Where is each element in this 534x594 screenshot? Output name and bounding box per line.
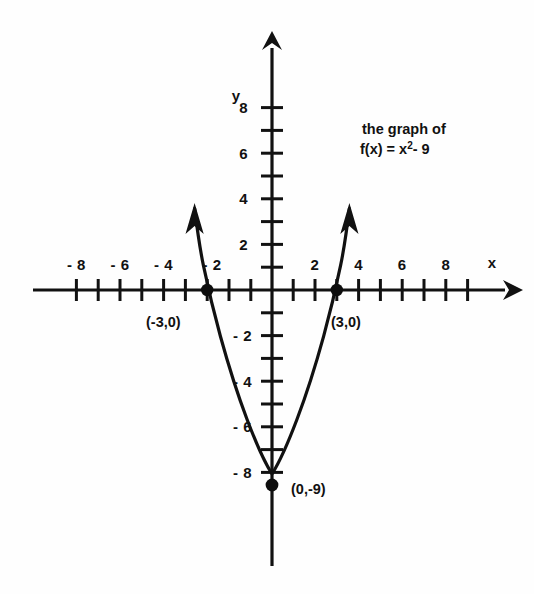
y-tick-label: 8 <box>239 99 248 116</box>
y-tick-label: 6 <box>239 145 248 162</box>
point-label-left-root: (-3,0) <box>146 314 181 330</box>
graph-annotation: the graph of f(x) = x2- 9 <box>360 121 446 157</box>
x-tick-label-group: - 8 - 6 - 4 - 2 2 4 6 8 <box>67 256 450 273</box>
x-tick-label: - 6 <box>110 256 129 273</box>
x-axis-arrowhead-icon <box>503 280 523 300</box>
x-tick-label: - 8 <box>67 256 86 273</box>
left-branch-arrowhead-icon <box>186 203 204 234</box>
y-axis-arrowhead-icon <box>262 31 282 50</box>
x-tick-label: - 4 <box>154 256 173 273</box>
x-axis-label: x <box>488 254 497 271</box>
annotation-function-prefix: f(x) = x <box>360 141 407 157</box>
right-branch-arrowhead-icon <box>340 203 358 234</box>
annotation-function-suffix: - 9 <box>413 141 430 157</box>
point-dot-right-root <box>331 284 343 296</box>
y-tick-label: - 8 <box>233 464 252 481</box>
y-tick-label: - 2 <box>233 327 252 344</box>
y-axis-label: y <box>232 87 241 104</box>
y-tick-label: 4 <box>239 190 248 207</box>
figure-page: - 8 - 6 - 4 - 2 2 4 6 8 8 6 4 2 - 2 - 4 … <box>0 0 534 594</box>
x-tick-label: 2 <box>311 256 320 273</box>
annotation-line-1: the graph of <box>362 121 446 137</box>
point-dot-left-root <box>201 284 213 296</box>
point-label-vertex: (0,-9) <box>291 481 326 497</box>
point-label-right-root: (3,0) <box>331 314 361 330</box>
x-tick-label: 4 <box>354 256 363 273</box>
y-tick-label: 2 <box>239 236 248 253</box>
x-tick-label: 6 <box>398 256 407 273</box>
point-dot-vertex <box>266 479 279 492</box>
x-tick-label: 8 <box>441 256 450 273</box>
graph-figure: - 8 - 6 - 4 - 2 2 4 6 8 8 6 4 2 - 2 - 4 … <box>0 0 534 594</box>
annotation-line-2: f(x) = x2- 9 <box>360 140 430 157</box>
